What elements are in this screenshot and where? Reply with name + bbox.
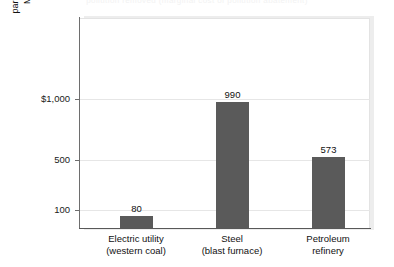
y-axis-line: [79, 17, 80, 229]
bar-petroleum-refinery: [312, 157, 345, 228]
x-category-line-1: Steel: [182, 233, 282, 245]
bar-value-steel: 990: [208, 89, 257, 100]
x-category-label-electric-utility: Electric utility (western coal): [86, 233, 186, 257]
bar-value-electric-utility: 80: [112, 203, 161, 214]
y-axis-title: particulate pollution removed Minimum co…: [10, 0, 33, 42]
x-axis-line: [79, 228, 371, 229]
x-category-line-2: (blast furnace): [182, 245, 282, 257]
bar-steel: [216, 102, 249, 228]
x-category-label-petroleum-refinery: Petroleum refinery: [278, 233, 378, 257]
x-category-line-2: (western coal): [86, 245, 186, 257]
x-category-line-1: Petroleum: [278, 233, 378, 245]
bar-value-petroleum-refinery: 573: [304, 144, 353, 155]
bar-electric-utility: [120, 216, 153, 228]
y-axis-title-line-2: particulate pollution removed: [10, 0, 22, 42]
ytick-label-1000: $1,000: [41, 94, 70, 104]
bar-chart-figure: pollution removed (marginal cost of poll…: [0, 0, 394, 267]
ytick-label-500: 500: [54, 155, 70, 165]
x-category-line-1: Electric utility: [86, 233, 186, 245]
x-category-label-steel: Steel (blast furnace): [182, 233, 282, 257]
y-axis-title-line-1: Minimum cost per ton of: [22, 0, 34, 42]
ytick-label-100: 100: [54, 205, 70, 215]
clipped-chart-title: pollution removed (marginal cost of poll…: [0, 0, 394, 5]
x-category-line-2: refinery: [278, 245, 378, 257]
